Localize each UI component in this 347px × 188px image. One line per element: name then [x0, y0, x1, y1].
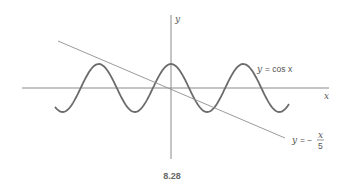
line-label-numerator: x: [318, 130, 323, 140]
cosine-label: y = cos x: [256, 64, 293, 74]
line-label-eq: = −: [300, 135, 312, 145]
figure-caption: 8.28: [163, 171, 181, 181]
y-axis-label: y: [174, 14, 181, 24]
line-label-denominator: 5: [318, 141, 323, 151]
line-label-lhs: y: [291, 135, 298, 145]
x-axis-label: x: [324, 91, 329, 101]
cosine-label-lhs: y: [256, 64, 263, 74]
cosine-label-rhs: = cos x: [265, 64, 293, 74]
line-label: y = − x 5: [291, 130, 324, 151]
figure-8-28: y x y = cos x y = − x 5 8.28: [0, 0, 347, 188]
